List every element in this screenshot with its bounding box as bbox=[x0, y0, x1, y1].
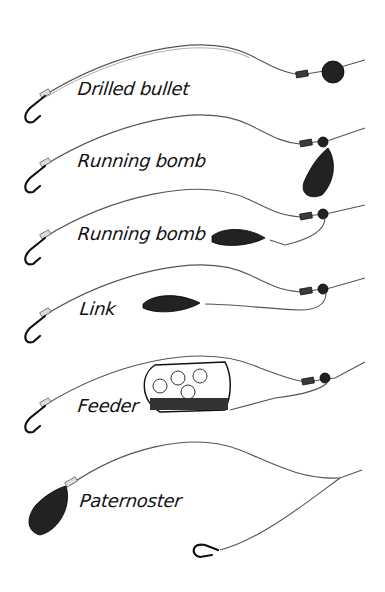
rig-paternoster bbox=[29, 442, 362, 557]
hook-icon bbox=[25, 96, 45, 122]
bomb-weight-icon bbox=[303, 148, 333, 197]
rig-drilled-bullet bbox=[25, 45, 365, 122]
rig-feeder bbox=[25, 356, 365, 432]
label-paternoster: Paternoster bbox=[79, 490, 183, 511]
hook-icon bbox=[194, 545, 218, 557]
label-running-bomb-1: Running bomb bbox=[77, 150, 207, 171]
drilled-bullet-weight-icon bbox=[322, 61, 344, 83]
label-drilled-bullet: Drilled bullet bbox=[77, 78, 190, 99]
bomb-weight-icon bbox=[212, 229, 265, 245]
cage-feeder-icon bbox=[144, 362, 230, 412]
rigs-illustration bbox=[0, 0, 385, 592]
label-link: Link bbox=[79, 298, 117, 319]
hook-icon bbox=[25, 406, 45, 432]
hook-icon bbox=[25, 166, 45, 192]
label-running-bomb-2: Running bomb bbox=[77, 223, 207, 244]
hook-icon bbox=[25, 316, 45, 342]
label-feeder: Feeder bbox=[77, 395, 140, 416]
rig-link bbox=[25, 265, 365, 342]
bomb-weight-icon bbox=[143, 296, 200, 312]
bomb-weight-icon bbox=[29, 486, 68, 535]
hook-icon bbox=[25, 238, 45, 264]
